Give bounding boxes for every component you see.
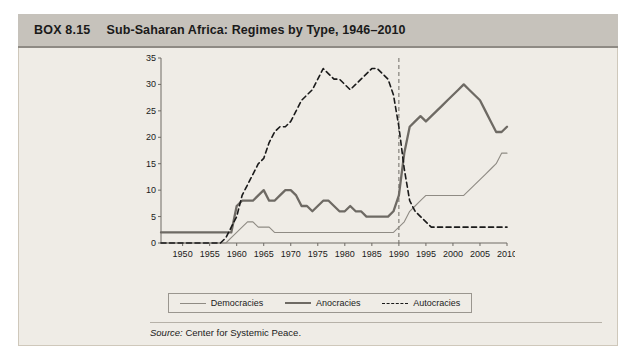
svg-text:1975: 1975 xyxy=(308,249,328,259)
svg-text:1990: 1990 xyxy=(389,249,409,259)
legend-label-democracies: Democracies xyxy=(211,298,264,308)
page-root: BOX 8.15 Sub-Saharan Africa: Regimes by … xyxy=(0,0,638,362)
svg-text:35: 35 xyxy=(146,53,156,63)
legend-item-anocracies: Anocracies xyxy=(285,298,361,308)
source-label: Source: xyxy=(150,327,183,338)
box-header: BOX 8.15 Sub-Saharan Africa: Regimes by … xyxy=(18,14,618,48)
svg-text:1955: 1955 xyxy=(200,249,220,259)
legend-swatch-anocracies xyxy=(285,302,311,304)
box-title: Sub-Saharan Africa: Regimes by Type, 194… xyxy=(107,23,406,37)
legend-label-autocracies: Autocracies xyxy=(413,298,460,308)
svg-text:15: 15 xyxy=(146,159,156,169)
svg-text:5: 5 xyxy=(151,212,156,222)
chart-plot-area: 0510152025303519501955196019651970197519… xyxy=(135,52,515,267)
box-number: BOX 8.15 xyxy=(34,23,91,37)
source-text: Center for Systemic Peace. xyxy=(185,327,301,338)
svg-text:1965: 1965 xyxy=(254,249,274,259)
svg-text:1980: 1980 xyxy=(335,249,355,259)
svg-text:25: 25 xyxy=(146,106,156,116)
svg-text:1995: 1995 xyxy=(416,249,436,259)
svg-text:20: 20 xyxy=(146,132,156,142)
svg-text:1985: 1985 xyxy=(362,249,382,259)
svg-text:10: 10 xyxy=(146,185,156,195)
svg-text:2010: 2010 xyxy=(497,249,515,259)
source-divider xyxy=(150,322,602,323)
regimes-line-chart: 0510152025303519501955196019651970197519… xyxy=(135,52,515,267)
svg-text:1970: 1970 xyxy=(281,249,301,259)
legend-swatch-autocracies xyxy=(382,303,408,304)
legend-swatch-democracies xyxy=(180,303,206,304)
source-note: Source: Center for Systemic Peace. xyxy=(150,327,301,338)
svg-text:1960: 1960 xyxy=(227,249,247,259)
legend-item-autocracies: Autocracies xyxy=(382,298,460,308)
svg-text:1950: 1950 xyxy=(173,249,193,259)
legend-item-democracies: Democracies xyxy=(180,298,264,308)
legend-label-anocracies: Anocracies xyxy=(316,298,361,308)
chart-legend: Democracies Anocracies Autocracies xyxy=(168,293,472,313)
svg-text:30: 30 xyxy=(146,79,156,89)
svg-text:0: 0 xyxy=(151,238,156,248)
svg-text:2000: 2000 xyxy=(443,249,463,259)
svg-text:2005: 2005 xyxy=(470,249,490,259)
